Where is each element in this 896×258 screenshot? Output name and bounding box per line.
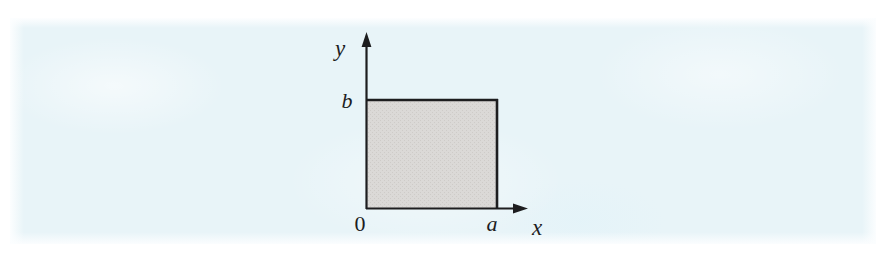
y-tick-label-b: b bbox=[342, 88, 353, 113]
x-tick-label-a: a bbox=[487, 211, 498, 236]
origin-label: 0 bbox=[355, 211, 366, 236]
x-axis-arrowhead bbox=[513, 204, 528, 214]
coordinate-diagram: y x b a 0 bbox=[0, 0, 896, 258]
x-axis-label: x bbox=[531, 215, 543, 240]
shaded-rectangle-region bbox=[367, 99, 498, 209]
diagram-svg: y x b a 0 bbox=[0, 0, 896, 258]
figure-screenshot: y x b a 0 bbox=[0, 0, 896, 258]
y-axis-label: y bbox=[333, 36, 346, 61]
y-axis-arrowhead bbox=[362, 32, 372, 47]
